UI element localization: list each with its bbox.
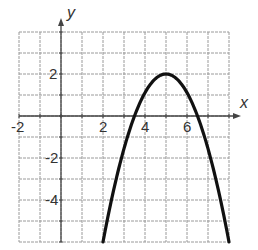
x-tick-label: 4 [141, 118, 149, 135]
chart-canvas: -22462-2-4 x y [0, 0, 258, 250]
y-tick-label: -4 [45, 191, 58, 208]
x-axis-label: x [239, 94, 249, 111]
y-axis-label: y [66, 4, 76, 21]
y-tick-label: 2 [49, 65, 57, 82]
grid-lines [19, 32, 229, 242]
x-tick-label: -2 [11, 118, 24, 135]
x-tick-label: 2 [99, 118, 107, 135]
y-tick-label: -2 [45, 149, 58, 166]
x-tick-label: 6 [183, 118, 191, 135]
